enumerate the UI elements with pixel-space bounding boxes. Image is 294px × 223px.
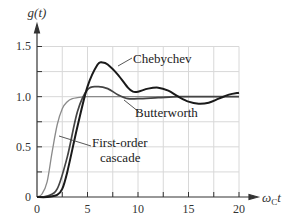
y-tick-label: 0 bbox=[25, 190, 31, 204]
annotations: Chebychev Butterworth First-order cascad… bbox=[59, 51, 198, 165]
step-response-chart: 1.5 1.0 0.5 0 0 5 10 15 20 g(t) ωCt Cheb… bbox=[0, 0, 294, 223]
butterworth-annotation: Butterworth bbox=[135, 105, 198, 120]
x-tick-label: 5 bbox=[85, 202, 91, 216]
chebychev-annotation: Chebychev bbox=[133, 51, 192, 66]
x-axis-label-omega: ω bbox=[262, 190, 271, 205]
x-axis-label: ωCt bbox=[262, 190, 281, 207]
y-axis-label: g(t) bbox=[28, 5, 47, 20]
y-tick-label: 0.5 bbox=[16, 140, 31, 154]
x-tick-label: 0 bbox=[34, 202, 40, 216]
y-tick-label: 1.5 bbox=[16, 39, 31, 53]
first-order-annotation-line2: cascade bbox=[100, 150, 141, 165]
x-axis-arrow-icon bbox=[249, 195, 258, 200]
x-tick-label: 10 bbox=[132, 202, 144, 216]
x-tick-label: 15 bbox=[183, 202, 195, 216]
y-axis-arrow-icon bbox=[35, 24, 40, 33]
x-axis-label-t: t bbox=[277, 190, 281, 205]
x-tick-label: 20 bbox=[233, 202, 245, 216]
first-order-annotation-line1: First-order bbox=[92, 135, 148, 150]
chebychev-leader bbox=[118, 58, 132, 66]
y-tick-label: 1.0 bbox=[16, 90, 31, 104]
